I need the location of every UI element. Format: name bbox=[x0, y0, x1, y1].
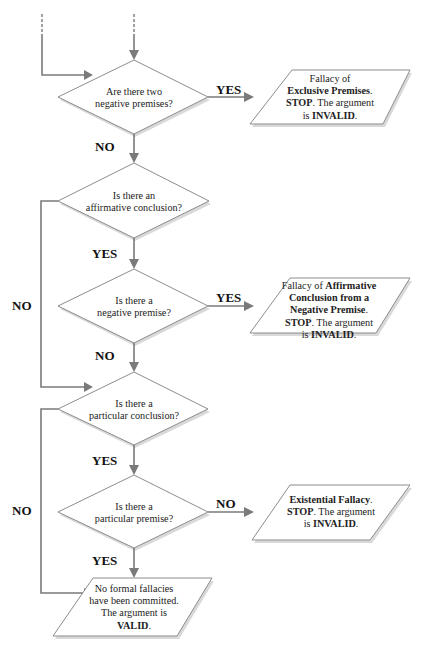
arrowhead bbox=[244, 301, 254, 311]
stop-text: STOP bbox=[285, 317, 311, 328]
arrowhead bbox=[129, 362, 139, 372]
arrowhead bbox=[244, 507, 254, 517]
fallacy-name: Negative Premise bbox=[290, 304, 365, 315]
arrowhead bbox=[129, 259, 139, 269]
decision-text-line: particular premise? bbox=[70, 513, 198, 525]
text: . The argument bbox=[313, 506, 375, 517]
stop-text: STOP bbox=[287, 506, 313, 517]
edge-label-d2-yes: YES bbox=[92, 246, 117, 262]
decision-text-line: negative premise? bbox=[70, 307, 198, 319]
decision-text-d4: Is there a particular conclusion? bbox=[70, 398, 198, 422]
edge-label-d4-no: NO bbox=[12, 503, 32, 519]
decision-text-line: negative premises? bbox=[70, 98, 198, 110]
fallacy-name: Exclusive Premises bbox=[287, 85, 370, 96]
text: . bbox=[370, 85, 373, 96]
decision-text-d1: Are there two negative premises? bbox=[70, 86, 198, 110]
edge-label-d1-yes: YES bbox=[216, 82, 241, 98]
text: Fallacy of bbox=[282, 280, 326, 291]
decision-text-d2: Is there an affirmative conclusion? bbox=[70, 190, 198, 214]
text: No formal fallacies bbox=[95, 583, 174, 594]
arrowhead bbox=[84, 70, 93, 80]
text: is bbox=[304, 518, 313, 529]
edge-label-d3-yes: YES bbox=[216, 290, 241, 306]
outcome-text-valid: No formal fallacies have been committed.… bbox=[74, 583, 194, 632]
fallacy-name: Existential Fallacy bbox=[289, 494, 370, 505]
stop-text: STOP bbox=[286, 97, 312, 108]
connector-d2-no bbox=[41, 201, 84, 387]
verdict: INVALID bbox=[311, 329, 354, 340]
edge-label-d2-no: NO bbox=[12, 298, 32, 314]
fallacy-name: Conclusion from a bbox=[289, 292, 369, 303]
decision-text-line: Is there a bbox=[70, 501, 198, 513]
decision-text-line: Is there a bbox=[70, 295, 198, 307]
connector-left-to-d1 bbox=[42, 34, 84, 75]
text: . bbox=[365, 304, 368, 315]
decision-text-d5: Is there a particular premise? bbox=[70, 501, 198, 525]
text: is bbox=[302, 329, 311, 340]
outcome-text-affirmative-conclusion: Fallacy of Affirmative Conclusion from a… bbox=[268, 280, 390, 341]
text: . The argument bbox=[312, 97, 374, 108]
text: . bbox=[354, 329, 357, 340]
edge-label-d1-no: NO bbox=[95, 139, 115, 155]
arrowhead bbox=[129, 153, 139, 163]
text: . The argument bbox=[311, 317, 373, 328]
decision-text-line: particular conclusion? bbox=[70, 410, 198, 422]
text: . bbox=[355, 110, 358, 121]
decision-text-line: affirmative conclusion? bbox=[70, 202, 198, 214]
decision-text-line: Is there a bbox=[70, 398, 198, 410]
text: have been committed. bbox=[89, 595, 179, 606]
arrowhead bbox=[244, 92, 254, 102]
decision-text-d3: Is there a negative premise? bbox=[70, 295, 198, 319]
text: The argument is bbox=[101, 607, 167, 618]
text: . bbox=[370, 494, 373, 505]
edge-label-d4-yes: YES bbox=[92, 453, 117, 469]
text: . bbox=[356, 518, 359, 529]
outcome-text-exclusive-premises: Fallacy of Exclusive Premises. STOP. The… bbox=[272, 73, 388, 122]
verdict: VALID bbox=[117, 620, 149, 631]
arrowhead bbox=[129, 465, 139, 475]
arrowhead bbox=[129, 50, 139, 60]
fallacy-name: Affirmative bbox=[325, 280, 376, 291]
decision-text-line: Are there two bbox=[70, 86, 198, 98]
decision-text-line: Is there an bbox=[70, 190, 198, 202]
arrowhead bbox=[129, 568, 139, 578]
outcome-text-existential-fallacy: Existential Fallacy. STOP. The argument … bbox=[270, 494, 392, 531]
text: . bbox=[148, 620, 151, 631]
edge-label-d3-no: NO bbox=[95, 348, 115, 364]
arrowhead bbox=[84, 382, 93, 392]
edge-label-d5-no: NO bbox=[216, 496, 236, 512]
text: is bbox=[303, 110, 312, 121]
verdict: INVALID bbox=[312, 110, 355, 121]
verdict: INVALID bbox=[313, 518, 356, 529]
text: Fallacy of bbox=[309, 73, 350, 84]
edge-label-d5-yes: YES bbox=[92, 553, 117, 569]
